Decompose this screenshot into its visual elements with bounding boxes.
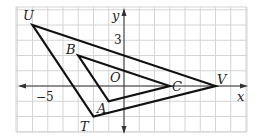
vertex-label-t: T bbox=[80, 119, 90, 134]
grid-lines bbox=[16, 7, 247, 132]
vertex-label-a: A bbox=[96, 101, 106, 116]
y-axis-arrow-up-icon bbox=[122, 8, 127, 16]
tick-label-x-neg5: −5 bbox=[36, 90, 54, 104]
vertex-label-u: U bbox=[23, 8, 35, 23]
y-axis-label: y bbox=[111, 8, 120, 23]
x-axis-label: x bbox=[237, 89, 245, 104]
tick-label-y-3: 3 bbox=[114, 33, 122, 47]
coordinate-plane: x y O −5 3 U V T B C A bbox=[0, 0, 257, 139]
vertex-label-b: B bbox=[65, 42, 76, 57]
origin-label: O bbox=[110, 70, 121, 85]
vertex-label-v: V bbox=[217, 72, 228, 87]
x-axis-arrow-left-icon bbox=[18, 84, 26, 89]
vertex-label-c: C bbox=[172, 79, 182, 94]
y-axis-arrow-down-icon bbox=[122, 126, 127, 134]
